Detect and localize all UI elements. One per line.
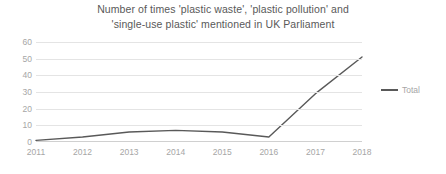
x-axis-tick-2011: 2011 bbox=[27, 147, 45, 157]
legend: Total bbox=[381, 85, 420, 95]
y-axis-tick-10: 10 bbox=[0, 121, 32, 130]
x-axis-tick-2014: 2014 bbox=[166, 147, 185, 157]
legend-label-total: Total bbox=[402, 85, 420, 95]
series-total-polyline bbox=[36, 57, 362, 140]
gridline bbox=[36, 125, 362, 126]
axis-baseline bbox=[36, 141, 362, 142]
chart-title: Number of times 'plastic waste', 'plasti… bbox=[0, 2, 446, 32]
y-axis-tick-20: 20 bbox=[0, 104, 32, 113]
x-axis: 20112012201320142015201620172018 bbox=[36, 147, 362, 161]
gridline bbox=[36, 42, 362, 43]
plot-area bbox=[36, 42, 362, 142]
y-axis-tick-50: 50 bbox=[0, 54, 32, 63]
gridline bbox=[36, 59, 362, 60]
y-axis-tick-30: 30 bbox=[0, 88, 32, 97]
chart-title-line-1: Number of times 'plastic waste', 'plasti… bbox=[0, 2, 446, 17]
gridline bbox=[36, 92, 362, 93]
x-axis-tick-2018: 2018 bbox=[353, 147, 372, 157]
x-axis-tick-2012: 2012 bbox=[73, 147, 92, 157]
y-axis-tick-60: 60 bbox=[0, 38, 32, 47]
chart-title-line-2: 'single-use plastic' mentioned in UK Par… bbox=[0, 17, 446, 32]
gridline bbox=[36, 75, 362, 76]
y-axis-tick-0: 0 bbox=[0, 138, 32, 147]
gridline bbox=[36, 109, 362, 110]
y-axis: 0102030405060 bbox=[0, 42, 32, 142]
legend-swatch-total bbox=[381, 89, 398, 91]
x-axis-tick-2016: 2016 bbox=[259, 147, 278, 157]
y-axis-tick-40: 40 bbox=[0, 71, 32, 80]
x-axis-tick-2015: 2015 bbox=[213, 147, 232, 157]
x-axis-tick-2013: 2013 bbox=[120, 147, 139, 157]
line-chart: Number of times 'plastic waste', 'plasti… bbox=[0, 0, 446, 174]
x-axis-tick-2017: 2017 bbox=[306, 147, 325, 157]
